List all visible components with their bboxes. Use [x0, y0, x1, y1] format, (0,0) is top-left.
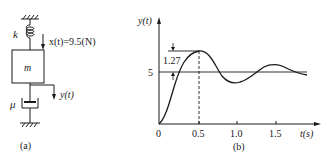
damper-icon [22, 83, 38, 123]
figure-canvas: k x(t)=9.5(N) m y(t) μ [0, 0, 330, 161]
x-axis-label: t(s) [300, 128, 314, 140]
step-response-chart: y(t) t(s) 5 1.27 0 0.5 1.0 1.5 (b) [137, 15, 321, 153]
force-arrow-icon [41, 34, 45, 50]
top-ground-icon [21, 15, 39, 19]
caption-a: (a) [20, 140, 31, 152]
output-arrow-icon [30, 85, 56, 100]
x-tick-1-5: 1.5 [269, 128, 282, 139]
x-axis [159, 122, 321, 126]
spring-label: k [13, 28, 19, 40]
y-tick-5: 5 [148, 67, 153, 78]
caption-b: (b) [233, 141, 245, 153]
output-label: y(t) [59, 89, 75, 101]
y-axis [157, 17, 161, 124]
spring-icon [26, 19, 34, 50]
x-tick-0: 0 [156, 128, 161, 139]
response-curve [159, 51, 307, 124]
force-label: x(t)=9.5(N) [49, 36, 95, 48]
overshoot-label: 1.27 [163, 55, 181, 66]
mass-spring-damper-diagram: k x(t)=9.5(N) m y(t) μ [9, 15, 95, 152]
bottom-ground-icon [20, 123, 40, 127]
damper-label: μ [9, 98, 16, 110]
mass-label: m [24, 62, 31, 73]
x-tick-1-0: 1.0 [230, 128, 243, 139]
y-axis-label: y(t) [137, 15, 153, 27]
x-tick-0-5: 0.5 [192, 128, 205, 139]
